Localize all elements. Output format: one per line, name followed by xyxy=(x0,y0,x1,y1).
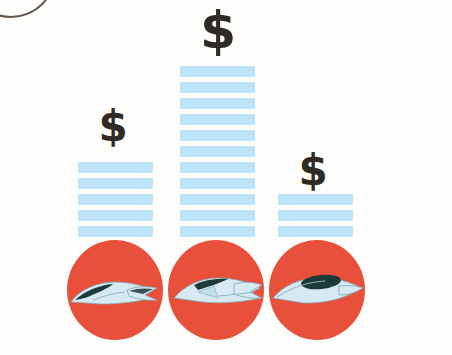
bar-stripe xyxy=(278,210,353,221)
bar-stripe xyxy=(78,210,153,221)
bar-stripe xyxy=(278,226,353,237)
bar-stripe xyxy=(180,130,255,141)
fish-icon-2 xyxy=(168,240,264,340)
bar-fish-1 xyxy=(78,162,153,237)
bar-stripe xyxy=(180,162,255,173)
bar-stripe xyxy=(180,82,255,93)
bar-stripe xyxy=(78,194,153,205)
bar-fish-3 xyxy=(278,194,353,237)
bar-stripe xyxy=(180,146,255,157)
circle-fish-3 xyxy=(269,240,365,340)
circle-fish-2 xyxy=(168,240,264,340)
bar-stripe xyxy=(78,162,153,173)
price-label-fish-1: $ xyxy=(92,106,134,148)
bar-stripe xyxy=(180,114,255,125)
bar-stripe xyxy=(278,194,353,205)
bar-stripe xyxy=(180,66,255,77)
illustration-canvas: $ $ xyxy=(0,0,452,355)
fish-icon-3 xyxy=(269,240,365,340)
bar-stripe xyxy=(180,178,255,189)
price-label-fish-2: $ xyxy=(194,4,242,56)
bar-stripe xyxy=(180,210,255,221)
bar-stripe xyxy=(78,226,153,237)
fish-3-graphic xyxy=(269,240,365,340)
fish-2-graphic xyxy=(168,240,264,340)
bar-stripe xyxy=(78,178,153,189)
page-curl-artifact xyxy=(0,0,56,18)
circle-fish-1 xyxy=(67,240,163,340)
bar-stripe xyxy=(180,226,255,237)
fish-icon-1 xyxy=(67,240,163,340)
price-label-fish-3: $ xyxy=(292,150,334,192)
bar-stripe xyxy=(180,98,255,109)
bar-stripe xyxy=(180,194,255,205)
bar-fish-2 xyxy=(180,66,255,237)
fish-1-graphic xyxy=(67,240,163,340)
